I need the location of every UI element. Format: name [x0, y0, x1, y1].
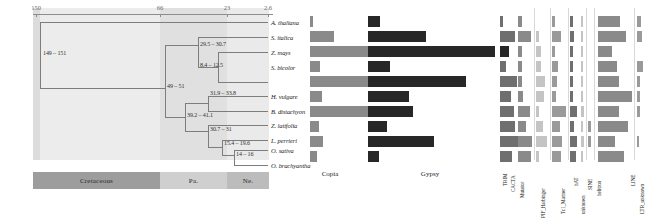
unknown-bar-l-perrieri [588, 121, 591, 132]
node-label-oryza: 14 – 16 [236, 151, 253, 157]
era-label-neogene: Ne. [227, 176, 269, 187]
ltr-unknown-bar-z-latifolia [637, 106, 640, 117]
axis-tick-150 [36, 14, 37, 17]
helitron-bar-b-distachyon [598, 91, 632, 102]
pif-harbinger-bar-h-vulgare [552, 76, 557, 87]
branch-panicoid-vertical [198, 37, 199, 67]
mutator-bar-l-perrieri [536, 121, 543, 132]
node-label-poaceae: 49 – 51 [167, 83, 184, 89]
cacta-bar-l-perrieri [518, 121, 526, 132]
hat-bar-b-distachyon [581, 91, 583, 102]
trim-bar-l-perrieri [500, 121, 515, 132]
branch-oryzoid-vertical [208, 125, 209, 147]
helitron-bar-l-perrieri [598, 121, 628, 132]
axis-tick-label-2p6: 2.6 [264, 4, 272, 11]
column-separator-5 [594, 8, 595, 160]
panel-label-pif-harbinger: PIF_Harbinger [540, 188, 546, 218]
mutator-bar-s-italica [536, 31, 539, 42]
gypsy-bar-s-italica [368, 31, 426, 42]
pif-harbinger-bar-s-bicolor [552, 61, 558, 72]
panel-label-line: LINE [630, 175, 636, 186]
pif-harbinger-bar-b-distachyon [552, 91, 556, 102]
copia-bar-s-bicolor [310, 61, 320, 72]
pif-harbinger-bar-s-italica [552, 31, 561, 42]
branch-to-h-vulgare [208, 96, 268, 97]
time-axis [33, 14, 273, 15]
hat-bar-s-italica [581, 31, 583, 42]
trim-bar-z-latifolia [500, 106, 514, 117]
helitron-bar-o-brachyantha [598, 151, 624, 162]
tc1-mariner-bar-h-vulgare [570, 76, 573, 87]
era-label-cretaceous: Cretaceous [33, 176, 160, 187]
branch-to-s-italica [198, 37, 268, 38]
branch-to-b-distachyon [208, 111, 268, 112]
branch-to-o-brachyantha [234, 165, 268, 166]
tc1-mariner-bar-s-italica [570, 31, 574, 42]
mutator-bar-h-vulgare [536, 76, 545, 87]
gypsy-bar-s-bicolor [368, 61, 390, 72]
panel-label-helitron: helitron [596, 181, 602, 196]
trim-bar-s-italica [500, 31, 515, 42]
trim-bar-z-mays [500, 46, 509, 57]
pif-harbinger-bar-o-sativa [552, 136, 562, 147]
taxon-label-z-latifolia: Z. latifolia [271, 122, 297, 129]
pif-harbinger-bar-z-mays [552, 46, 555, 57]
ltr-unknown-bar-b-distachyon [637, 91, 640, 102]
axis-tick-label-66: 66 [157, 4, 164, 11]
trim-bar-s-bicolor [500, 61, 506, 72]
hat-bar-l-perrieri [581, 121, 583, 132]
node-label-oryzoid: 30.7 – 31 [210, 126, 232, 132]
hat-bar-o-brachyantha [581, 151, 583, 162]
ltr-unknown-bar-a-thaliana [637, 16, 641, 27]
era-background-neogene [227, 8, 269, 160]
panel-label-unknown: unknown [580, 195, 586, 214]
hat-bar-a-thaliana [581, 16, 583, 27]
gypsy-bar-h-vulgare [368, 76, 466, 87]
column-separator-2 [550, 8, 551, 160]
trim-bar-b-distachyon [500, 91, 511, 102]
panel-label-hat: hAT [573, 177, 579, 186]
pif-harbinger-bar-o-brachyantha [552, 151, 561, 162]
panel-label-gypsy: Gypsy [421, 170, 439, 178]
cacta-bar-s-italica [518, 31, 531, 42]
trim-bar-a-thaliana [500, 16, 503, 27]
helitron-bar-a-thaliana [598, 16, 620, 27]
cacta-bar-z-latifolia [518, 106, 530, 117]
column-separator-4 [586, 8, 587, 160]
panel-label-mutator: Mutator [519, 182, 525, 198]
copia-bar-l-perrieri [310, 121, 319, 132]
node-label-bep: 39.2 – 41.1 [187, 112, 213, 118]
tc1-mariner-bar-z-mays [570, 46, 573, 57]
panel-label-ltr-unknown: LTR_unknown [639, 184, 645, 214]
pif-harbinger-bar-a-thaliana [552, 16, 555, 27]
helitron-bar-s-bicolor [598, 61, 617, 72]
hat-bar-z-mays [581, 46, 583, 57]
cacta-bar-o-sativa [518, 136, 532, 147]
node-label-oryzeae: 15.4 – 19.6 [224, 140, 250, 146]
helitron-bar-z-mays [598, 46, 612, 57]
branch-oryzeae-to-oryza [222, 155, 234, 156]
era-background-cretaceous [40, 8, 160, 160]
branch-poaceae-vertical [165, 45, 166, 117]
tc1-mariner-bar-a-thaliana [570, 16, 573, 27]
copia-bar-o-brachyantha [310, 151, 317, 162]
mutator-bar-z-mays [536, 46, 541, 57]
node-label-zea-sorghum: 8.4 – 12.5 [200, 62, 223, 68]
helitron-bar-o-sativa [598, 136, 615, 147]
panel-label-copia: Copia [322, 170, 339, 178]
tc1-mariner-bar-o-brachyantha [570, 151, 576, 162]
taxon-label-s-bicolor: S. bicolor [271, 64, 295, 71]
era-label-paleogene: Pa. [160, 176, 227, 187]
era-background-early [33, 8, 40, 160]
mutator-bar-o-brachyantha [536, 151, 539, 162]
node-label-root: 149 – 151 [43, 50, 66, 56]
cacta-bar-h-vulgare [518, 76, 522, 87]
branch-root-vertical [40, 22, 41, 88]
hat-bar-h-vulgare [581, 76, 583, 87]
trim-bar-h-vulgare [500, 76, 517, 87]
branch-bep-to-pooid [185, 103, 208, 104]
panel-label-tc1-mariner: Tc1_Mariner [560, 188, 566, 214]
helitron-bar-h-vulgare [598, 76, 619, 87]
hat-bar-o-sativa [581, 136, 584, 147]
pif-harbinger-bar-l-perrieri [552, 121, 560, 132]
